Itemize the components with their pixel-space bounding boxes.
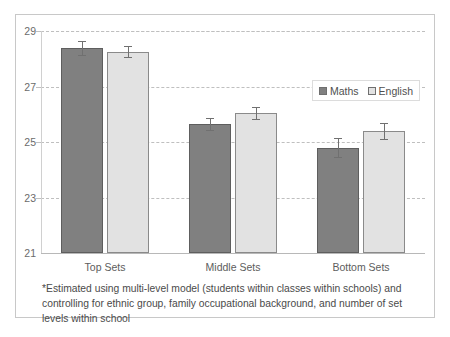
- legend-swatch-maths-icon: [319, 87, 327, 95]
- y-axis-tick-label: 21: [14, 248, 36, 259]
- error-bar-cap: [252, 107, 260, 108]
- chart-legend[interactable]: Maths English: [312, 80, 420, 101]
- legend-label-maths: Maths: [330, 85, 359, 97]
- error-bar: [338, 138, 339, 157]
- error-bar-cap: [78, 41, 86, 42]
- chart-screenshot: 2123252729 Top SetsMiddle SetsBottom Set…: [0, 0, 450, 337]
- legend-swatch-english-icon: [368, 87, 376, 95]
- error-bar-cap: [252, 119, 260, 120]
- y-axis-tick-label: 25: [14, 137, 36, 148]
- y-axis-tick-label: 23: [14, 193, 36, 204]
- error-bar: [256, 107, 257, 119]
- error-bar: [210, 118, 211, 130]
- bar-maths-bottom-sets: [317, 148, 359, 253]
- error-bar: [384, 123, 385, 140]
- error-bar-cap: [380, 123, 388, 124]
- x-axis-label-middle-sets: Middle Sets: [169, 262, 297, 273]
- plot-area: [41, 31, 425, 253]
- bar-english-top-sets: [107, 52, 149, 253]
- y-axis-labels: 2123252729: [10, 0, 36, 337]
- error-bar-cap: [334, 138, 342, 139]
- bar-maths-top-sets: [61, 48, 103, 253]
- error-bar: [82, 41, 83, 55]
- error-bar: [128, 46, 129, 57]
- error-bar-cap: [334, 157, 342, 158]
- y-axis-tick-label: 29: [14, 26, 36, 37]
- bar-english-bottom-sets: [363, 131, 405, 253]
- legend-item-maths[interactable]: Maths: [319, 85, 359, 97]
- error-bar-cap: [206, 130, 214, 131]
- legend-item-english[interactable]: English: [368, 85, 413, 97]
- error-bar-cap: [124, 57, 132, 58]
- x-axis-label-bottom-sets: Bottom Sets: [297, 262, 425, 273]
- error-bar-cap: [124, 46, 132, 47]
- y-axis-tick-label: 27: [14, 82, 36, 93]
- chart-footnote: *Estimated using multi-level model (stud…: [42, 282, 410, 327]
- error-bar-cap: [206, 118, 214, 119]
- error-bar-cap: [380, 139, 388, 140]
- x-axis-label-top-sets: Top Sets: [41, 262, 169, 273]
- legend-label-english: English: [379, 85, 413, 97]
- bar-english-middle-sets: [235, 113, 277, 253]
- bar-maths-middle-sets: [189, 124, 231, 253]
- x-axis-line: [41, 253, 425, 254]
- error-bar-cap: [78, 55, 86, 56]
